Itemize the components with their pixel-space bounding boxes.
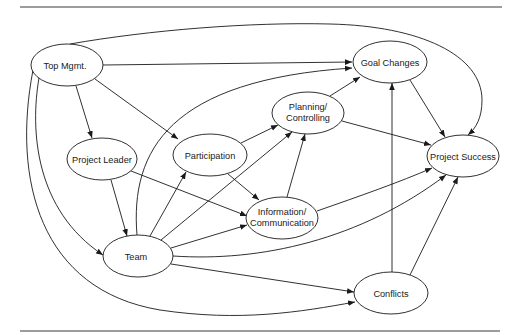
node-planning-controlling: Planning/ Controlling: [272, 92, 344, 134]
edge-goalchanges-projectsuccess: [410, 80, 445, 137]
node-team: Team: [103, 235, 173, 277]
edge-topmgmt-goalchanges: [103, 62, 352, 65]
node-project-leader-label: Project Leader: [72, 155, 132, 165]
node-conflicts-label: Conflicts: [373, 289, 409, 299]
node-planning-label-line1: Planning/: [289, 102, 328, 112]
node-information-label-line2: Communication: [250, 218, 314, 228]
node-participation: Participation: [173, 134, 247, 176]
node-project-leader: Project Leader: [67, 138, 137, 180]
edge-information-projectsuccess: [317, 168, 432, 211]
node-planning-label-line2: Controlling: [286, 113, 330, 123]
node-team-label: Team: [125, 252, 148, 262]
edge-topmgmt-participation: [95, 79, 178, 139]
node-top-mgmt-label: Top Mgmt.: [44, 61, 87, 71]
node-information-communication: Information/ Communication: [246, 197, 318, 239]
edge-projectleader-information: [131, 171, 247, 216]
edge-team-conflicts: [171, 264, 354, 292]
edge-participation-information: [228, 174, 259, 200]
node-conflicts: Conflicts: [354, 272, 428, 314]
edge-team-participation: [150, 172, 186, 236]
success-factors-diagram: Top Mgmt. Project Leader Participation P…: [0, 0, 519, 335]
edge-topmgmt-projectleader: [76, 86, 92, 138]
edge-projectleader-team: [111, 180, 127, 236]
edge-planning-projectsuccess: [342, 121, 431, 145]
node-goal-changes-label: Goal Changes: [361, 58, 420, 68]
edge-information-planning: [287, 134, 305, 197]
edge-planning-goalchanges: [330, 77, 360, 96]
node-participation-label: Participation: [185, 151, 236, 161]
node-project-success-label: Project Success: [430, 152, 496, 162]
node-project-success: Project Success: [427, 135, 499, 177]
node-top-mgmt: Top Mgmt.: [31, 44, 103, 86]
edge-participation-planning: [241, 125, 278, 143]
node-goal-changes: Goal Changes: [353, 41, 427, 83]
edge-team-information: [171, 225, 247, 248]
node-information-label-line1: Information/: [258, 207, 307, 217]
edge-conflicts-projectsuccess: [410, 177, 458, 275]
